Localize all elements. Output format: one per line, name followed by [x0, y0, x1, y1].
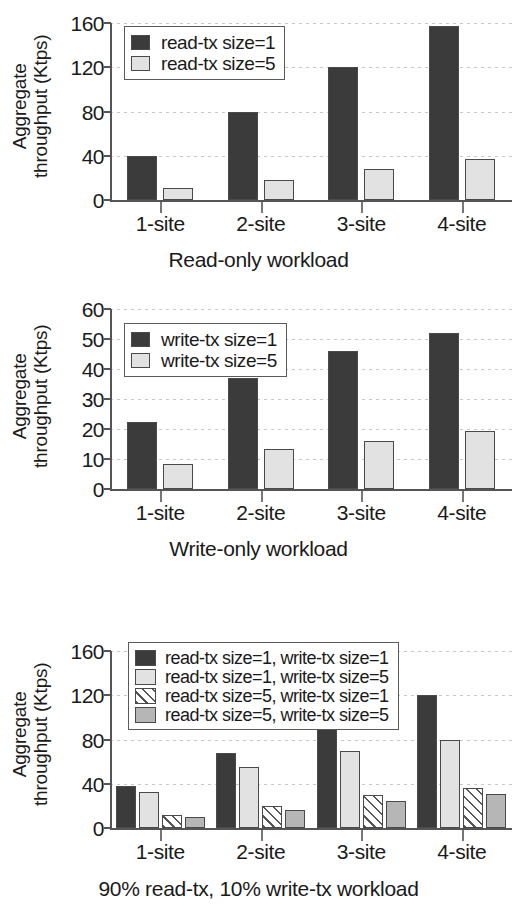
chart-caption: 90% read-tx, 10% write-tx workload: [0, 877, 517, 901]
y-axis-label-line1: Aggregate: [10, 324, 31, 467]
legend-swatch-icon: [131, 56, 150, 71]
y-axis-line: [110, 651, 112, 828]
chart-write-only: Aggregatethroughput (Ktps)01020304050601…: [0, 285, 517, 585]
bar: [340, 751, 360, 828]
bar: [328, 67, 358, 200]
bar: [264, 449, 294, 490]
bar: [417, 695, 437, 828]
bar: [285, 810, 305, 828]
y-axis-label-line2: throughput (Ktps): [31, 324, 52, 467]
x-axis-tick-label: 1-site: [136, 501, 185, 525]
legend-label: read-tx size=5: [161, 54, 275, 73]
bar: [116, 786, 136, 828]
bar: [465, 431, 495, 490]
y-axis-tick-label: 40: [82, 145, 104, 166]
bar: [486, 794, 506, 828]
bar: [364, 441, 394, 489]
y-axis-tick-label: 40: [82, 773, 104, 794]
x-axis-tick-label: 2-site: [236, 840, 285, 864]
y-axis-tick-label: 10: [82, 449, 104, 470]
bar: [429, 26, 459, 200]
legend: read-tx size=1, write-tx size=1read-tx s…: [128, 642, 399, 730]
legend: write-tx size=1write-tx size=5: [124, 323, 287, 377]
bar: [429, 333, 459, 489]
x-axis-tick-label: 1-site: [136, 212, 185, 236]
x-axis-tick-label: 4-site: [437, 840, 486, 864]
x-axis-tick-label: 1-site: [136, 840, 185, 864]
chart-mixed-90-10: Aggregatethroughput (Ktps)040801201601-s…: [0, 585, 517, 913]
y-axis-label-line2: throughput (Ktps): [31, 662, 52, 805]
legend-swatch-icon: [131, 332, 150, 347]
y-axis-tick-label: 0: [93, 479, 104, 500]
bar: [127, 422, 157, 490]
bar: [228, 112, 258, 200]
legend-swatch-icon: [135, 669, 156, 685]
legend-label: read-tx size=1, write-tx size=5: [165, 668, 389, 686]
y-axis-line: [110, 309, 112, 489]
legend-item: read-tx size=5, write-tx size=1: [135, 686, 389, 705]
y-axis-tick-label: 80: [82, 729, 104, 750]
legend-label: read-tx size=1, write-tx size=1: [165, 649, 389, 667]
legend-label: write-tx size=1: [161, 330, 277, 349]
x-axis-tick-label: 2-site: [236, 501, 285, 525]
bar: [162, 815, 182, 828]
x-axis-tick-label: 3-site: [337, 212, 386, 236]
bar: [364, 169, 394, 200]
y-axis-tick-label: 0: [93, 190, 104, 211]
gridline: [110, 309, 512, 310]
bar: [465, 159, 495, 200]
y-axis-tick-label: 0: [93, 818, 104, 839]
y-axis-label-line1: Aggregate: [10, 34, 31, 177]
bar: [163, 464, 193, 490]
x-axis-tick-label: 3-site: [337, 840, 386, 864]
y-axis-label: Aggregatethroughput (Ktps): [0, 640, 62, 828]
bar: [239, 767, 259, 828]
chart-caption: Write-only workload: [0, 537, 517, 561]
bar: [185, 817, 205, 828]
y-axis-tick-label: 30: [82, 389, 104, 410]
x-axis-tick-label: 4-site: [437, 501, 486, 525]
bar: [127, 156, 157, 200]
legend-item: write-tx size=5: [131, 350, 277, 371]
legend: read-tx size=1read-tx size=5: [124, 26, 285, 80]
bar: [228, 378, 258, 489]
legend-swatch-icon: [135, 707, 156, 723]
legend-item: read-tx size=1, write-tx size=5: [135, 667, 389, 686]
chart-read-only: Aggregatethroughput (Ktps)040801201601-s…: [0, 0, 517, 285]
bar: [317, 725, 337, 828]
y-axis-line: [110, 23, 112, 200]
bar: [328, 351, 358, 489]
legend-item: write-tx size=1: [131, 329, 277, 350]
bar: [262, 806, 282, 828]
y-axis-tick-label: 40: [82, 359, 104, 380]
legend-swatch-icon: [135, 650, 156, 666]
y-axis-tick-label: 120: [70, 57, 104, 78]
y-axis-label-line1: Aggregate: [10, 662, 31, 805]
y-axis-tick-label: 80: [82, 101, 104, 122]
legend-swatch-icon: [131, 353, 150, 368]
bar: [463, 788, 483, 828]
legend-label: read-tx size=5, write-tx size=5: [165, 706, 389, 724]
bar: [216, 753, 236, 828]
x-axis-line: [110, 828, 512, 830]
chart-caption: Read-only workload: [0, 248, 517, 272]
y-axis-tick-label: 160: [70, 641, 104, 662]
x-axis-tick-label: 2-site: [236, 212, 285, 236]
bar: [363, 795, 383, 828]
legend-item: read-tx size=5, write-tx size=5: [135, 705, 389, 724]
x-axis-line: [110, 200, 512, 202]
legend-item: read-tx size=1, write-tx size=1: [135, 648, 389, 667]
legend-item: read-tx size=1: [131, 32, 275, 53]
y-axis-tick-label: 50: [82, 329, 104, 350]
bar: [264, 180, 294, 200]
bar: [386, 801, 406, 828]
x-axis-tick-label: 3-site: [337, 501, 386, 525]
x-axis-tick-label: 4-site: [437, 212, 486, 236]
y-axis-tick-label: 60: [82, 299, 104, 320]
y-axis-label: Aggregatethroughput (Ktps): [0, 303, 62, 489]
legend-label: write-tx size=5: [161, 351, 277, 370]
bar: [163, 188, 193, 200]
y-axis-label-line2: throughput (Ktps): [31, 34, 52, 177]
legend-swatch-icon: [131, 35, 150, 50]
legend-label: read-tx size=1: [161, 33, 275, 52]
